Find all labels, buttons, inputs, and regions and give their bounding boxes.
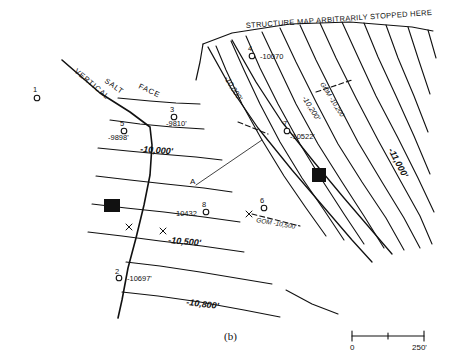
well-number-8: 8: [202, 200, 206, 209]
map-top-boundary: [196, 22, 433, 80]
well-symbol-6: [261, 205, 267, 211]
scale-label-left: 0: [350, 343, 355, 352]
contour-label-10500: -10,500': [168, 235, 202, 248]
well-symbol-4: [249, 53, 255, 59]
well-number-5: 5: [120, 119, 124, 128]
contour-label-10800: -10,800': [186, 297, 220, 311]
well-value-3: -9810': [166, 119, 187, 128]
fault-zone: [208, 40, 392, 262]
well-value-7: -10522': [290, 132, 315, 141]
platform-markers: [104, 95, 326, 212]
scale-label-right: 250': [412, 343, 427, 352]
leader-line-A: [196, 140, 262, 185]
point-label-A: A: [190, 177, 196, 186]
well-number-3: 3: [170, 105, 174, 114]
well-value-4: -10070: [260, 52, 283, 61]
contour-label-11000: -11,000': [386, 146, 410, 180]
figure-caption: (b): [0, 330, 461, 342]
contours-lower-right: [286, 290, 338, 314]
label-face: FACE: [137, 82, 161, 100]
contour-label-10000: -10,000': [140, 144, 174, 156]
well-symbol-2: [116, 275, 122, 281]
fault-cut-label-10000: -10,000': [222, 74, 244, 102]
well-number-2: 2: [115, 267, 119, 276]
well-value-8: 10432: [176, 209, 197, 218]
well-number-6: 6: [260, 196, 264, 205]
well-value-2: -10697': [127, 274, 152, 283]
well-symbol-8: [203, 209, 209, 215]
well-number-1: 1: [33, 85, 37, 94]
well-value-5: -9898': [108, 133, 129, 142]
well-symbol-7: [284, 128, 290, 134]
well-number-7: 7: [283, 119, 287, 128]
well-symbols: [34, 53, 290, 281]
well-symbol-1: [34, 95, 40, 101]
figure-container: STRUCTURE MAP ARBITRARILY STOPPED HERE V…: [0, 0, 461, 360]
structure-map-drawing: STRUCTURE MAP ARBITRARILY STOPPED HERE V…: [0, 0, 461, 360]
well-number-4: 4: [248, 44, 252, 53]
fault-cut-label-gom-10500: GOM -10,500': [256, 216, 298, 230]
